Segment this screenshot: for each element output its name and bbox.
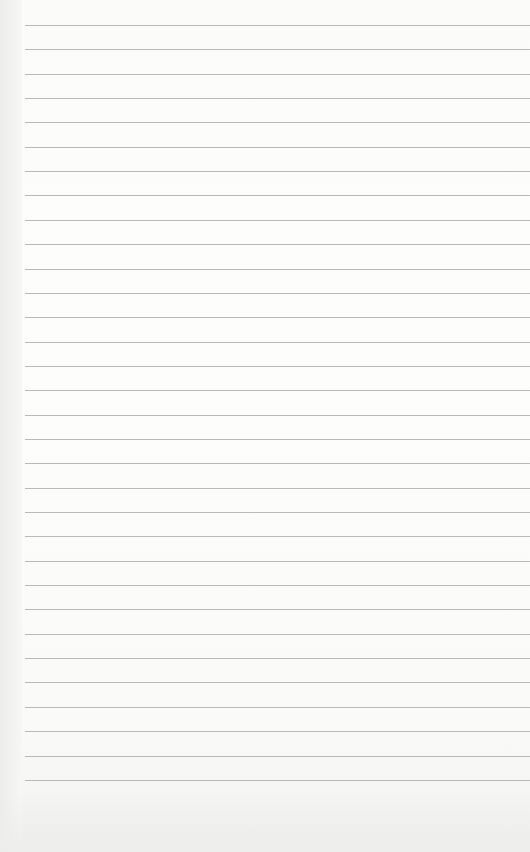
ruled-line <box>25 98 530 99</box>
ruled-line <box>25 74 530 75</box>
ruled-line <box>25 317 530 318</box>
ruled-line <box>25 780 530 781</box>
ruled-line <box>25 536 530 537</box>
ruled-line <box>25 609 530 610</box>
ruled-line <box>25 220 530 221</box>
ruled-line <box>25 512 530 513</box>
ruled-line <box>25 147 530 148</box>
ruled-line <box>25 415 530 416</box>
ruled-line <box>25 49 530 50</box>
ruled-line <box>25 390 530 391</box>
ruled-line <box>25 269 530 270</box>
paper-left-edge-shadow <box>0 0 22 852</box>
ruled-line <box>25 561 530 562</box>
ruled-line <box>25 731 530 732</box>
ruled-line <box>25 171 530 172</box>
ruled-line <box>25 756 530 757</box>
ruled-line <box>25 658 530 659</box>
ruled-line <box>25 463 530 464</box>
ruled-line <box>25 366 530 367</box>
paper-bottom-edge-shadow <box>0 792 530 852</box>
ruled-line <box>25 342 530 343</box>
lined-paper <box>0 0 530 852</box>
ruled-line <box>25 488 530 489</box>
ruled-line <box>25 439 530 440</box>
ruled-line <box>25 293 530 294</box>
ruled-line <box>25 585 530 586</box>
ruled-line <box>25 682 530 683</box>
ruled-line <box>25 195 530 196</box>
ruled-line <box>25 634 530 635</box>
ruled-line <box>25 244 530 245</box>
ruled-line <box>25 707 530 708</box>
ruled-line <box>25 25 530 26</box>
ruled-line <box>25 122 530 123</box>
